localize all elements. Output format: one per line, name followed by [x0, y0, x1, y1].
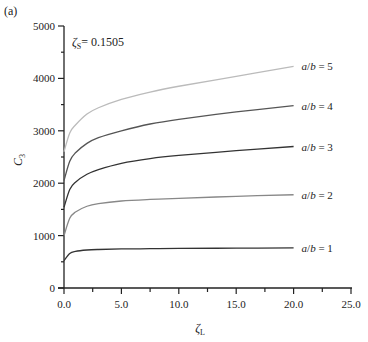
- damping-annotation: ζS= 0.1505: [72, 35, 124, 51]
- x-tick-label: 15.0: [227, 298, 247, 310]
- y-tick-label: 5000: [33, 20, 56, 32]
- chart: 0100020003000400050000.05.010.015.020.02…: [0, 0, 368, 342]
- y-tick-label: 1000: [33, 230, 56, 242]
- y-tick-label: 3000: [33, 125, 56, 137]
- x-tick-label: 20.0: [284, 298, 304, 310]
- curves: [64, 66, 294, 260]
- x-tick-label: 10.0: [169, 298, 189, 310]
- x-tick-label: 25.0: [341, 298, 361, 310]
- curve-label: a/b = 2: [302, 189, 333, 201]
- x-tick-label: 5.0: [115, 298, 129, 310]
- curve-2: [64, 195, 294, 236]
- x-axis-label: ζL: [195, 321, 205, 337]
- y-tick-label: 2000: [33, 177, 56, 189]
- curve-label: a/b = 1: [302, 242, 333, 254]
- curve-label: a/b = 4: [302, 100, 334, 112]
- curve-labels: a/b = 1a/b = 2a/b = 3a/b = 4a/b = 5: [302, 60, 334, 254]
- curve-label: a/b = 5: [302, 60, 334, 72]
- x-tick-label: 0.0: [57, 298, 71, 310]
- y-axis-label: C3: [11, 154, 27, 166]
- y-tick-label: 4000: [33, 72, 56, 84]
- y-tick-label: 0: [50, 282, 56, 294]
- curve-1: [64, 248, 294, 261]
- curve-label: a/b = 3: [302, 141, 334, 153]
